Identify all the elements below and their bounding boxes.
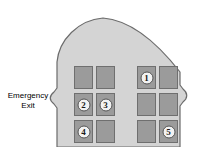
emergency-exit-label: Emergency Exit — [2, 91, 54, 111]
seat-left-r2-c2[interactable]: 3 — [96, 93, 115, 116]
seat-right-r3-c1[interactable] — [137, 120, 156, 143]
seat-left-r1-c1[interactable] — [74, 66, 93, 89]
seat-left-r3-c1[interactable]: 4 — [74, 120, 93, 143]
cabin-diagram: Emergency Exit 2 3 4 1 5 — [0, 0, 207, 147]
seat-marker-5: 5 — [162, 125, 175, 138]
seat-left-r1-c2[interactable] — [96, 66, 115, 89]
emergency-exit-line2: Exit — [2, 101, 54, 111]
seat-right-r3-c2[interactable]: 5 — [159, 120, 178, 143]
seat-marker-1: 1 — [140, 71, 153, 84]
seat-marker-3: 3 — [99, 98, 112, 111]
seat-left-r2-c1[interactable]: 2 — [74, 93, 93, 116]
seat-right-r1-c2[interactable] — [159, 66, 178, 89]
seat-right-r1-c1[interactable]: 1 — [137, 66, 156, 89]
seat-right-r2-c1[interactable] — [137, 93, 156, 116]
seat-left-r3-c2[interactable] — [96, 120, 115, 143]
seat-right-r2-c2[interactable] — [159, 93, 178, 116]
emergency-exit-line1: Emergency — [2, 91, 54, 101]
seat-marker-4: 4 — [77, 125, 90, 138]
seat-marker-2: 2 — [77, 98, 90, 111]
